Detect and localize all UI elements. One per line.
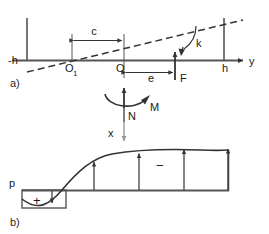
- panel-a-label: a): [10, 77, 20, 89]
- label-o1-subscript: 1: [73, 69, 78, 78]
- label-h: h: [222, 62, 228, 74]
- label-n: N: [128, 110, 136, 122]
- panel-b-label: b): [10, 216, 20, 228]
- label-o: O: [116, 62, 125, 74]
- moment-m-arc: [105, 94, 145, 106]
- label-m: M: [150, 101, 159, 113]
- panel-a-group: c e F k -h h y O 1 O N M x a): [8, 18, 255, 141]
- panel-b-group: p + − b): [9, 149, 229, 228]
- label-p: p: [9, 177, 15, 189]
- stress-curve: [22, 149, 228, 205]
- label-x-axis: x: [108, 127, 114, 139]
- label-e: e: [148, 72, 154, 84]
- label-f: F: [180, 72, 187, 84]
- negative-sign-label: −: [156, 158, 164, 173]
- label-c: c: [91, 25, 97, 37]
- label-minus-h: -h: [8, 54, 18, 66]
- figure-root: c e F k -h h y O 1 O N M x a): [0, 0, 269, 234]
- label-k: k: [196, 37, 202, 49]
- inclined-strain-line: [27, 20, 243, 72]
- angle-k-arc: [184, 26, 196, 49]
- moment-m-arrow-tip: [141, 95, 150, 105]
- engineering-diagram-svg: c e F k -h h y O 1 O N M x a): [0, 0, 269, 234]
- label-y-axis: y: [249, 55, 255, 67]
- positive-sign-label: +: [33, 193, 41, 208]
